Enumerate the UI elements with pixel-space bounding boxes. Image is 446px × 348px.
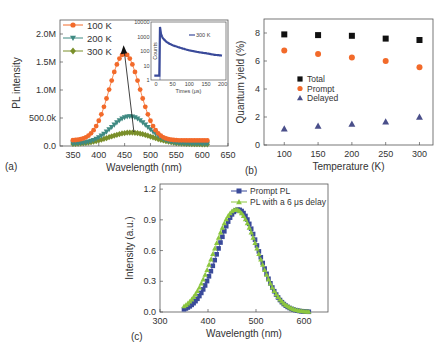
data-point: [281, 31, 287, 37]
data-point: [218, 240, 223, 245]
y-tick-label: 2.0M: [36, 29, 56, 39]
data-point: [112, 70, 117, 75]
inset-y-label: Counts: [152, 42, 158, 60]
y-tick-label: 0: [255, 140, 260, 150]
data-point: [94, 124, 99, 129]
legend-label: Prompt PL: [250, 186, 290, 196]
series-delayed: [281, 113, 423, 131]
data-point: [138, 87, 143, 92]
x-tick-label: 350: [65, 150, 80, 160]
legend-label: 200 K: [87, 33, 112, 44]
x-tick-label: 250: [378, 149, 393, 159]
data-point: [220, 234, 225, 239]
legend-label: Total: [307, 74, 325, 84]
x-tick-label: 600: [296, 316, 311, 326]
legend-c: Prompt PLPL with a 6 μs delay: [231, 186, 327, 207]
inset-y-tick: 1000: [137, 34, 149, 40]
data-point: [281, 125, 288, 131]
data-point: [104, 96, 109, 101]
data-point: [148, 118, 153, 123]
data-point: [133, 70, 138, 75]
x-tick-label: 300: [152, 316, 167, 326]
x-tick-label: 400: [200, 316, 215, 326]
data-point: [143, 104, 148, 109]
data-point: [114, 62, 119, 67]
panel-label-c: (c): [131, 331, 143, 342]
legend-label: Delayed: [307, 93, 338, 103]
x-tick-label: 500: [248, 316, 263, 326]
y-tick-label: 1.2: [143, 184, 156, 194]
y-tick-label: 0.6: [143, 246, 156, 256]
inset-y-tick: 1: [146, 77, 149, 83]
x-tick-label: 400: [91, 150, 106, 160]
y-tick-label: 0.0: [143, 307, 156, 317]
data-point: [348, 120, 355, 126]
inset-y-tick: 10: [143, 63, 149, 69]
data-point: [383, 58, 389, 64]
inset-x-tick: 0: [154, 81, 157, 87]
y-axis-label: PL intensity: [11, 57, 22, 108]
inset-y-tick: 10000: [134, 19, 149, 25]
y-tick-label: 4: [255, 84, 260, 94]
x-tick-label: 300: [412, 149, 427, 159]
panel-label-a: (a): [5, 161, 17, 172]
inset-x-tick: 50: [170, 81, 176, 87]
arrow-head-icon: [121, 45, 128, 54]
x-tick-label: 500: [143, 150, 158, 160]
y-axis-label: Quantum yield (%): [235, 41, 246, 124]
data-point: [315, 51, 321, 57]
legend-label: 300 K: [87, 46, 112, 57]
peak-shift-arrow: [124, 50, 134, 132]
panel-label-b: (b): [245, 165, 257, 176]
data-point: [315, 32, 321, 38]
data-point: [382, 118, 389, 124]
figure-canvas: 3504004505005506006500.0500.0k1.0M1.5M2.…: [0, 0, 446, 348]
chart-a-pl-intensity: 3504004505005506006500.0500.0k1.0M1.5M2.…: [5, 19, 236, 173]
x-tick-label: 150: [311, 149, 326, 159]
inset-y-tick: 100: [140, 48, 149, 54]
inset-x-tick: 150: [201, 81, 210, 87]
data-point: [416, 113, 423, 119]
data-point: [99, 112, 104, 117]
data-point: [416, 64, 422, 70]
x-tick-label: 200: [344, 149, 359, 159]
data-point: [383, 36, 389, 42]
x-axis-label: Wavelength (nm): [206, 328, 282, 339]
legend-label: Prompt: [307, 84, 335, 94]
x-tick-label: 550: [169, 150, 184, 160]
data-point: [127, 56, 132, 61]
legend-marker-icon: [297, 86, 302, 91]
x-tick-label: 450: [117, 150, 132, 160]
inset-decay-chart: 050100150200110100100010000Times (μs)Cou…: [134, 19, 227, 94]
inset-x-tick: 100: [185, 81, 194, 87]
x-axis-label: Wavelength (nm): [106, 162, 182, 173]
x-tick-label: 100: [277, 149, 292, 159]
data-point: [140, 96, 145, 101]
legend-b: TotalPromptDelayed: [297, 74, 338, 103]
data-point: [211, 264, 216, 269]
series-prompt: [281, 48, 422, 71]
legend-marker-icon: [297, 95, 303, 100]
x-tick-label: 650: [220, 150, 235, 160]
legend-a: 100 K200 K300 K: [63, 20, 112, 57]
y-tick-label: 1.5M: [36, 57, 56, 67]
data-point: [91, 128, 96, 133]
inset-x-tick: 200: [218, 81, 227, 87]
data-point: [102, 104, 107, 109]
legend-marker-icon: [297, 76, 302, 81]
chart-c-normalized-intensity: 3004005006000.00.30.60.91.2Wavelength (n…: [124, 184, 328, 342]
data-point: [315, 123, 322, 129]
data-point: [135, 78, 140, 83]
y-axis-label: Intensity (a.u.): [124, 216, 135, 279]
data-point: [96, 118, 101, 123]
axes-frame: [264, 19, 433, 145]
data-point: [107, 87, 112, 92]
data-point: [212, 258, 217, 263]
data-point: [145, 112, 150, 117]
data-point: [222, 229, 227, 234]
data-point: [349, 55, 355, 61]
data-point: [130, 62, 135, 67]
y-tick-label: 500.0k: [29, 113, 57, 123]
legend-label: PL with a 6 μs delay: [250, 197, 327, 207]
legend-marker-icon: [70, 22, 75, 27]
